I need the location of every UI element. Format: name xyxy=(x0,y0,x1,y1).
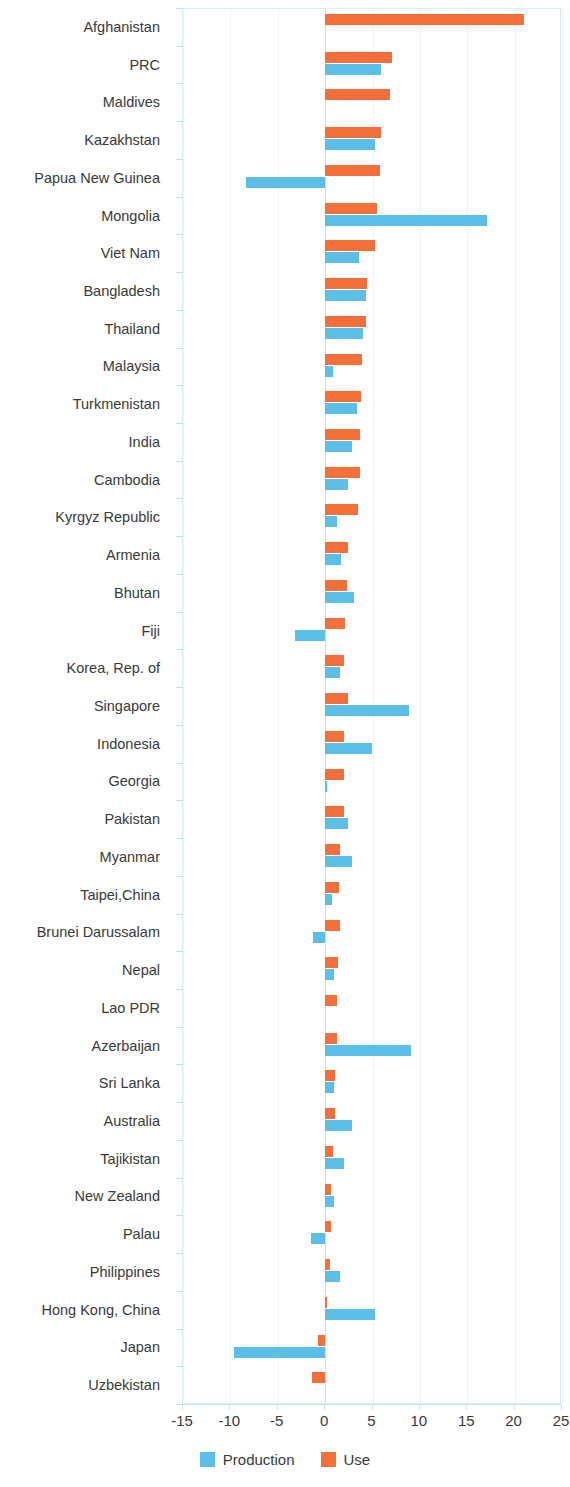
bar-use xyxy=(325,52,392,63)
y-axis-tick xyxy=(176,498,183,499)
y-axis-tick xyxy=(176,197,183,198)
plot-area xyxy=(182,8,561,1404)
y-axis-tick xyxy=(176,574,183,575)
category-label: Japan xyxy=(0,1340,160,1355)
bar-use xyxy=(325,618,345,629)
y-axis-tick xyxy=(176,1140,183,1141)
bar-production xyxy=(325,1196,334,1207)
bar-row xyxy=(183,537,560,575)
bar-use xyxy=(325,1184,331,1195)
chart-container: AfghanistanPRCMaldivesKazakhstanPapua Ne… xyxy=(0,0,570,1487)
y-axis-tick xyxy=(176,914,183,915)
y-axis-tick xyxy=(176,1253,183,1254)
bar-use xyxy=(325,1221,331,1232)
bar-row xyxy=(183,84,560,122)
bar-use xyxy=(325,1108,334,1119)
bar-production xyxy=(325,969,334,980)
bar-row xyxy=(183,688,560,726)
category-label: Brunei Darussalam xyxy=(0,925,160,940)
category-label: Georgia xyxy=(0,774,160,789)
category-label: Indonesia xyxy=(0,737,160,752)
category-label: Tajikistan xyxy=(0,1152,160,1167)
bar-row xyxy=(183,764,560,802)
bar-production xyxy=(325,1158,344,1169)
bar-use xyxy=(325,203,377,214)
bar-production xyxy=(325,139,375,150)
bar-row xyxy=(183,9,560,47)
y-axis-tick xyxy=(176,612,183,613)
bar-use xyxy=(325,1297,327,1308)
bar-production xyxy=(311,1233,325,1244)
y-axis-tick xyxy=(176,385,183,386)
bar-row xyxy=(183,1141,560,1179)
x-axis-tick xyxy=(419,1404,420,1410)
bar-row xyxy=(183,1065,560,1103)
y-axis-tick xyxy=(176,1064,183,1065)
bar-row xyxy=(183,1254,560,1292)
y-axis-tick xyxy=(176,348,183,349)
y-axis-tick xyxy=(176,1178,183,1179)
bar-use xyxy=(325,1070,334,1081)
bar-use xyxy=(325,429,360,440)
bar-row xyxy=(183,424,560,462)
y-axis-tick xyxy=(176,649,183,650)
y-axis-tick xyxy=(176,1027,183,1028)
legend-item[interactable]: Use xyxy=(321,1452,371,1467)
bar-use xyxy=(325,89,389,100)
category-label: Viet Nam xyxy=(0,246,160,261)
bar-row xyxy=(183,877,560,915)
bar-use xyxy=(325,504,358,515)
category-label: Philippines xyxy=(0,1265,160,1280)
bar-production xyxy=(325,667,340,678)
y-axis-tick xyxy=(176,687,183,688)
bar-row xyxy=(183,499,560,537)
bar-row xyxy=(183,801,560,839)
x-axis-tick xyxy=(277,1404,278,1410)
bar-row xyxy=(183,1028,560,1066)
bar-row xyxy=(183,952,560,990)
bar-row xyxy=(183,235,560,273)
bar-use xyxy=(325,731,344,742)
legend-item[interactable]: Production xyxy=(200,1452,295,1467)
bar-row xyxy=(183,386,560,424)
gridline xyxy=(562,9,563,1403)
y-axis-tick xyxy=(176,1215,183,1216)
category-label: Australia xyxy=(0,1114,160,1129)
bar-row xyxy=(183,1103,560,1141)
chart-legend: ProductionUse xyxy=(0,1452,570,1467)
y-axis-tick xyxy=(176,951,183,952)
y-axis-tick xyxy=(176,763,183,764)
bar-use xyxy=(325,14,524,25)
x-axis-tick xyxy=(324,1404,325,1410)
bar-use xyxy=(325,769,344,780)
category-label: Pakistan xyxy=(0,812,160,827)
legend-label: Use xyxy=(344,1452,371,1467)
y-axis-tick xyxy=(176,46,183,47)
bar-row xyxy=(183,650,560,688)
y-axis-tick xyxy=(176,1291,183,1292)
bar-use xyxy=(325,995,337,1006)
bar-row xyxy=(183,1330,560,1368)
bar-production xyxy=(325,252,359,263)
bar-production xyxy=(325,328,363,339)
bar-row xyxy=(183,311,560,349)
bar-use xyxy=(325,316,366,327)
y-axis-tick xyxy=(176,876,183,877)
bar-production xyxy=(325,516,337,527)
bar-production xyxy=(325,705,409,716)
bar-row xyxy=(183,349,560,387)
bar-production xyxy=(325,1309,375,1320)
y-axis-tick xyxy=(176,121,183,122)
bar-production xyxy=(325,894,332,905)
category-label: Azerbaijan xyxy=(0,1039,160,1054)
bar-use xyxy=(325,655,344,666)
category-label: Armenia xyxy=(0,548,160,563)
bar-use xyxy=(325,240,375,251)
bar-use xyxy=(325,127,381,138)
category-label: Singapore xyxy=(0,699,160,714)
bar-use xyxy=(312,1372,325,1383)
bar-production xyxy=(325,1271,340,1282)
category-label: Kazakhstan xyxy=(0,133,160,148)
bar-row xyxy=(183,160,560,198)
category-label: Uzbekistan xyxy=(0,1378,160,1393)
